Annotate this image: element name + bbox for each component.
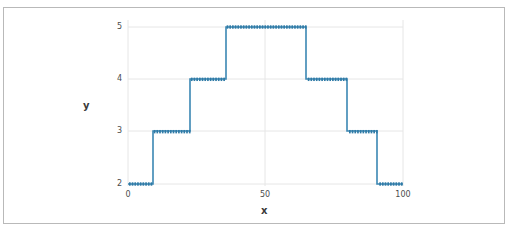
data-point-marker (371, 130, 373, 133)
data-point-marker (349, 130, 351, 133)
data-point-marker (194, 78, 196, 81)
data-point-marker (308, 78, 310, 81)
x-axis-title: x (261, 206, 267, 216)
data-point-marker (229, 25, 231, 28)
data-point-marker (289, 25, 291, 28)
data-point-marker (132, 182, 134, 185)
data-point-marker (145, 182, 147, 185)
data-point-marker (340, 78, 342, 81)
data-point-marker (140, 182, 142, 185)
data-point-marker (134, 182, 136, 185)
data-point-marker (332, 78, 334, 81)
data-point-marker (189, 130, 191, 133)
data-point-marker (319, 78, 321, 81)
data-point-marker (321, 78, 323, 81)
gridlines-vertical (128, 20, 403, 186)
data-point-marker (181, 130, 183, 133)
data-point-marker (170, 130, 172, 133)
ytick-label-5: 5 (100, 23, 122, 31)
data-point-marker (278, 25, 280, 28)
data-point-marker (275, 25, 277, 28)
data-point-marker (251, 25, 253, 28)
data-point-marker (167, 130, 169, 133)
data-point-marker (329, 78, 331, 81)
data-point-marker (248, 25, 250, 28)
data-point-marker (148, 182, 150, 185)
data-point-marker (294, 25, 296, 28)
data-point-marker (401, 182, 403, 185)
data-point-marker (143, 182, 145, 185)
data-point-marker (273, 25, 275, 28)
data-point-marker (218, 78, 220, 81)
data-point-marker (286, 25, 288, 28)
data-point-marker (202, 78, 204, 81)
xtick-label-0: 0 (113, 191, 143, 199)
data-point-marker (337, 78, 339, 81)
data-point-marker (175, 130, 177, 133)
data-point-marker (300, 25, 302, 28)
ytick-label-3: 3 (100, 127, 122, 135)
data-point-marker (270, 25, 272, 28)
data-point-marker (237, 25, 239, 28)
data-point-marker (223, 78, 225, 81)
data-point-marker (297, 25, 299, 28)
data-point-marker (365, 130, 367, 133)
data-point-marker (178, 130, 180, 133)
data-point-marker (159, 130, 161, 133)
data-point-marker (310, 78, 312, 81)
data-point-marker (393, 182, 395, 185)
data-point-marker (335, 78, 337, 81)
step-chart: 5 4 3 2 0 50 100 y x (0, 0, 511, 232)
data-point-marker (316, 78, 318, 81)
data-point-marker (156, 130, 158, 133)
data-point-marker (305, 25, 307, 28)
ytick-label-2: 2 (100, 180, 122, 188)
data-point-marker (387, 182, 389, 185)
data-point-marker (281, 25, 283, 28)
data-point-marker (137, 182, 139, 185)
data-point-marker (235, 25, 237, 28)
data-point-marker (343, 78, 345, 81)
data-point-marker (240, 25, 242, 28)
data-point-marker (243, 25, 245, 28)
data-point-marker (291, 25, 293, 28)
data-point-marker (376, 130, 378, 133)
data-point-marker (395, 182, 397, 185)
data-point-marker (204, 78, 206, 81)
data-point-marker (151, 182, 153, 185)
data-point-marker (313, 78, 315, 81)
data-point-marker (363, 130, 365, 133)
data-point-marker (352, 130, 354, 133)
data-point-marker (324, 78, 326, 81)
data-point-marker (207, 78, 209, 81)
data-point-marker (246, 25, 248, 28)
step-markers (129, 25, 403, 185)
data-point-marker (283, 25, 285, 28)
data-point-marker (379, 182, 381, 185)
data-point-marker (227, 25, 229, 28)
xtick-label-100: 100 (388, 191, 418, 199)
data-point-marker (183, 130, 185, 133)
data-point-marker (357, 130, 359, 133)
data-point-marker (212, 78, 214, 81)
data-point-marker (254, 25, 256, 28)
data-point-marker (373, 130, 375, 133)
data-point-marker (232, 25, 234, 28)
ytick-label-4: 4 (100, 75, 122, 83)
data-point-marker (215, 78, 217, 81)
data-point-marker (262, 25, 264, 28)
data-point-marker (196, 78, 198, 81)
screenshot-page: 5 4 3 2 0 50 100 y x (0, 0, 511, 232)
data-point-marker (154, 130, 156, 133)
data-point-marker (256, 25, 258, 28)
data-point-marker (346, 78, 348, 81)
data-point-marker (165, 130, 167, 133)
xtick-label-50: 50 (250, 191, 280, 199)
data-point-marker (390, 182, 392, 185)
data-point-marker (264, 25, 266, 28)
data-point-marker (173, 130, 175, 133)
data-point-marker (259, 25, 261, 28)
data-point-marker (327, 78, 329, 81)
data-point-marker (199, 78, 201, 81)
data-point-marker (385, 182, 387, 185)
